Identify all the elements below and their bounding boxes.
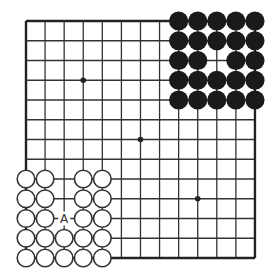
black-stone[interactable]	[188, 90, 207, 109]
white-stone[interactable]	[17, 210, 35, 228]
black-stone[interactable]	[169, 31, 188, 50]
black-stone[interactable]	[207, 71, 226, 90]
black-stone[interactable]	[226, 71, 245, 90]
white-stone[interactable]	[74, 229, 92, 247]
star-point	[195, 196, 201, 202]
white-stone[interactable]	[36, 170, 54, 188]
black-stone[interactable]	[207, 31, 226, 50]
white-stone[interactable]	[94, 210, 112, 228]
white-stone[interactable]	[36, 249, 54, 267]
black-stone[interactable]	[169, 11, 188, 30]
white-stone[interactable]	[36, 210, 54, 228]
white-stone[interactable]	[36, 229, 54, 247]
black-stone[interactable]	[207, 11, 226, 30]
white-stone[interactable]	[94, 229, 112, 247]
white-stone[interactable]	[17, 249, 35, 267]
white-stone[interactable]	[55, 249, 73, 267]
black-stone[interactable]	[226, 90, 245, 109]
black-stone[interactable]	[169, 51, 188, 70]
black-stone[interactable]	[207, 90, 226, 109]
black-stone[interactable]	[188, 31, 207, 50]
black-stone[interactable]	[169, 90, 188, 109]
go-board: A	[0, 0, 274, 280]
white-stone[interactable]	[55, 229, 73, 247]
black-stone[interactable]	[245, 31, 264, 50]
white-stone[interactable]	[74, 170, 92, 188]
point-label: A	[60, 212, 69, 226]
black-stone[interactable]	[169, 71, 188, 90]
black-stone[interactable]	[245, 11, 264, 30]
labels-layer: A	[58, 212, 70, 227]
white-stone[interactable]	[94, 249, 112, 267]
black-stone[interactable]	[245, 71, 264, 90]
white-stone[interactable]	[17, 170, 35, 188]
white-stone[interactable]	[36, 190, 54, 208]
black-stone[interactable]	[245, 90, 264, 109]
white-stone[interactable]	[74, 249, 92, 267]
white-stone[interactable]	[17, 190, 35, 208]
black-stone[interactable]	[188, 51, 207, 70]
black-stone[interactable]	[245, 51, 264, 70]
black-stone[interactable]	[226, 31, 245, 50]
black-stone[interactable]	[188, 11, 207, 30]
black-stone[interactable]	[226, 51, 245, 70]
white-stone[interactable]	[94, 170, 112, 188]
white-stone[interactable]	[17, 229, 35, 247]
star-point	[138, 137, 144, 143]
white-stone[interactable]	[74, 210, 92, 228]
star-point	[80, 77, 86, 83]
white-stone[interactable]	[94, 190, 112, 208]
white-stone[interactable]	[74, 190, 92, 208]
black-stone[interactable]	[188, 71, 207, 90]
black-stone[interactable]	[226, 11, 245, 30]
